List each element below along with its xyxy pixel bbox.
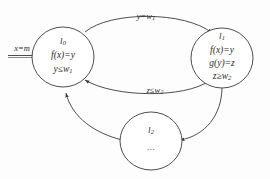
edge-l1-to-l2-path[interactable] <box>180 87 222 140</box>
state-node-l1-line-1: g(y)=z <box>209 58 235 69</box>
edge-l0-to-l1-label: y=w1 <box>136 11 155 21</box>
state-node-l0[interactable]: l0 f(x)=y y≤w1 <box>32 27 94 87</box>
edge-l2-to-l0[interactable] <box>66 93 122 140</box>
edge-l0-to-l1[interactable]: y=w1 <box>85 11 212 33</box>
edge-l1-to-l0[interactable]: z≤w2 <box>85 80 209 95</box>
entry-label: x=m <box>13 43 30 53</box>
state-diagram-svg: x=m y=w1 z≤w2 l0 <box>0 0 270 179</box>
edge-l1-to-l0-label: z≤w2 <box>146 85 165 95</box>
state-node-l2-circle[interactable] <box>120 112 182 170</box>
state-node-l1[interactable]: l1 f(x)=y g(y)=z z≥w2 <box>191 28 253 88</box>
state-node-l2[interactable]: l2 ... <box>120 112 182 170</box>
entry-label-val: m <box>24 43 30 53</box>
state-diagram-canvas: x=m y=w1 z≤w2 l0 <box>0 0 270 179</box>
state-node-l2-line-0: ... <box>147 142 155 152</box>
state-node-l1-line-0: f(x)=y <box>210 45 235 56</box>
edge-l1-to-l2[interactable] <box>180 87 222 140</box>
state-node-l0-line-0: f(x)=y <box>51 50 76 61</box>
edge-l2-to-l0-path[interactable] <box>66 93 122 140</box>
